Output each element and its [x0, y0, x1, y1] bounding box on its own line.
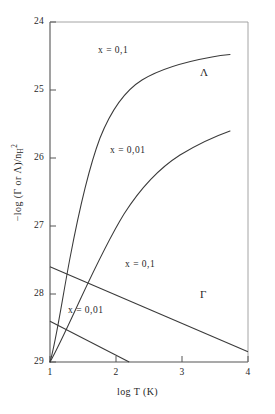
annotation-cooling-x-0-1: x = 0,1 — [98, 45, 128, 55]
annotation-heating-x-0-1: x = 0,1 — [125, 259, 155, 269]
y-tick-label-29: 29 — [22, 356, 44, 366]
annotation-cooling-x-0-01: x = 0,01 — [110, 145, 145, 155]
x-axis-title: log T (K) — [0, 386, 275, 397]
curve-cooling-x-0-01 — [50, 131, 230, 362]
y-axis-title-prefix: −log (Γ or Λ)/n — [12, 153, 23, 221]
x-tick-label-2: 2 — [106, 367, 126, 377]
figure-container: 24 25 26 27 28 29 1 2 3 4 −log (Γ or Λ)/… — [0, 0, 275, 414]
chart-plot-area — [0, 0, 275, 414]
y-axis-ticks — [50, 22, 56, 362]
curve-cooling-x-0-1 — [50, 55, 230, 362]
y-tick-label-27: 27 — [22, 220, 44, 230]
x-tick-label-3: 3 — [172, 367, 192, 377]
annotation-gamma-symbol: Γ — [200, 288, 206, 300]
y-axis-title-subscript: H — [17, 148, 25, 154]
y-tick-label-24: 24 — [22, 16, 44, 26]
y-axis-title-superscript: 2 — [11, 144, 19, 148]
y-axis-title: −log (Γ or Λ)/nH2 — [11, 113, 24, 253]
x-tick-label-1: 1 — [40, 367, 60, 377]
x-tick-label-4: 4 — [238, 367, 258, 377]
y-tick-label-28: 28 — [22, 288, 44, 298]
y-tick-label-25: 25 — [22, 84, 44, 94]
annotation-heating-x-0-01: x = 0,01 — [68, 305, 103, 315]
annotation-lambda-symbol: Λ — [200, 66, 208, 78]
y-tick-label-26: 26 — [22, 152, 44, 162]
x-axis-ticks — [50, 356, 248, 362]
line-heating-x-0-01 — [50, 321, 129, 362]
